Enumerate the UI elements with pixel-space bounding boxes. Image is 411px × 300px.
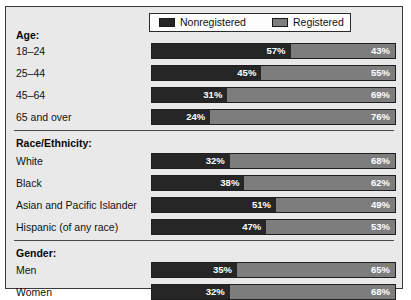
bar-segment-registered: 53% (266, 220, 395, 234)
legend-label-registered: Registered (293, 17, 344, 28)
bar-value-registered: 68% (371, 156, 395, 166)
bar-value-nonregistered: 57% (266, 46, 290, 56)
stacked-bar: 47% 53% (151, 219, 396, 235)
bar-value-registered: 62% (371, 178, 395, 188)
bar-segment-nonregistered: 24% (152, 110, 210, 124)
legend-swatch-nonregistered-icon (159, 18, 175, 27)
legend-item-nonregistered: Nonregistered (159, 14, 246, 31)
chart-row-18-24: 18–24 57% 43% (6, 43, 402, 59)
bar-value-registered: 68% (371, 287, 395, 297)
chart-row-45-64: 45–64 31% 69% (6, 87, 402, 103)
stacked-bar: 32% 68% (151, 153, 396, 169)
bar-segment-registered: 62% (244, 176, 395, 190)
bar-segment-nonregistered: 45% (152, 66, 261, 80)
stacked-bar: 24% 76% (151, 109, 396, 125)
chart-row-65-and-over: 65 and over 24% 76% (6, 109, 402, 125)
stacked-bar: 57% 43% (151, 43, 396, 59)
bar-value-nonregistered: 24% (186, 112, 210, 122)
bar-segment-registered: 69% (227, 88, 395, 102)
section-title-race-ethnicity: Race/Ethnicity: (16, 137, 92, 149)
row-label: Men (16, 264, 36, 276)
bar-segment-nonregistered: 35% (152, 263, 237, 277)
bar-value-registered: 43% (371, 46, 395, 56)
bar-segment-nonregistered: 32% (152, 154, 230, 168)
bar-segment-nonregistered: 57% (152, 44, 291, 58)
chart-row-asian-and-pacific-islander: Asian and Pacific Islander 51% 49% (6, 197, 402, 213)
stacked-bar: 51% 49% (151, 197, 396, 213)
bar-segment-nonregistered: 32% (152, 285, 230, 299)
chart-row-hispanic-of-any-race: Hispanic (of any race) 47% 53% (6, 219, 402, 235)
bar-value-nonregistered: 45% (237, 68, 261, 78)
bar-segment-registered: 49% (276, 198, 395, 212)
chart-legend: Nonregistered Registered (149, 13, 351, 32)
bar-value-nonregistered: 38% (220, 178, 244, 188)
bar-segment-nonregistered: 51% (152, 198, 276, 212)
row-label: Hispanic (of any race) (16, 221, 118, 233)
bar-segment-nonregistered: 38% (152, 176, 244, 190)
bar-value-registered: 55% (371, 68, 395, 78)
row-label: Asian and Pacific Islander (16, 199, 137, 211)
row-label: 65 and over (16, 111, 71, 123)
section-title-gender: Gender: (16, 247, 56, 259)
row-label: Black (16, 177, 42, 189)
bar-value-nonregistered: 47% (242, 222, 266, 232)
legend-label-nonregistered: Nonregistered (180, 17, 246, 28)
section-title-age: Age: (16, 29, 39, 41)
row-label: 25–44 (16, 67, 45, 79)
bar-value-registered: 53% (371, 222, 395, 232)
bar-value-registered: 76% (371, 112, 395, 122)
chart-row-black: Black 38% 62% (6, 175, 402, 191)
bar-segment-registered: 68% (230, 154, 395, 168)
chart-row-25-44: 25–44 45% 55% (6, 65, 402, 81)
bar-segment-nonregistered: 47% (152, 220, 266, 234)
row-label: 45–64 (16, 89, 45, 101)
bar-value-registered: 49% (371, 200, 395, 210)
bar-value-nonregistered: 32% (206, 156, 230, 166)
stacked-bar-chart-panel: Nonregistered Registered Age: 18–24 57% … (5, 6, 403, 289)
stacked-bar: 32% 68% (151, 284, 396, 300)
bar-value-nonregistered: 51% (252, 200, 276, 210)
row-label: White (16, 155, 43, 167)
bar-value-nonregistered: 32% (206, 287, 230, 297)
section-divider (14, 130, 394, 131)
bar-segment-registered: 43% (291, 44, 396, 58)
stacked-bar: 38% 62% (151, 175, 396, 191)
bar-segment-nonregistered: 31% (152, 88, 227, 102)
row-label: 18–24 (16, 45, 45, 57)
bar-value-nonregistered: 31% (203, 90, 227, 100)
chart-row-men: Men 35% 65% (6, 262, 402, 278)
bar-segment-registered: 65% (237, 263, 395, 277)
bar-segment-registered: 76% (210, 110, 395, 124)
stacked-bar: 35% 65% (151, 262, 396, 278)
bar-value-registered: 69% (371, 90, 395, 100)
bar-value-registered: 65% (371, 265, 395, 275)
bar-value-nonregistered: 35% (213, 265, 237, 275)
stacked-bar: 31% 69% (151, 87, 396, 103)
legend-swatch-registered-icon (272, 18, 288, 27)
bar-segment-registered: 68% (230, 285, 395, 299)
stacked-bar: 45% 55% (151, 65, 396, 81)
chart-row-white: White 32% 68% (6, 153, 402, 169)
chart-row-women: Women 32% 68% (6, 284, 402, 300)
row-label: Women (16, 286, 52, 298)
section-divider (14, 240, 394, 241)
bar-segment-registered: 55% (261, 66, 395, 80)
legend-item-registered: Registered (272, 14, 344, 31)
